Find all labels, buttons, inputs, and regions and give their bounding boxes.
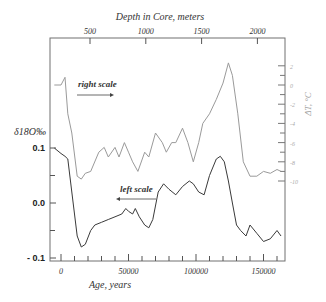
top-axis-tick-label: 500 <box>84 27 96 36</box>
x-axis-tick-label: 150000 <box>252 267 276 276</box>
left-axis-title: δ18O‰ <box>14 126 46 137</box>
left-scale-annotation: left scale <box>120 184 153 194</box>
top-axis-tick-label: 2000 <box>249 27 265 36</box>
left-axis: 0.10.0- 0.1 <box>27 143 56 263</box>
bottom-axis: 050000100000150000 <box>59 254 277 276</box>
right-axis-tick-label: -10 <box>290 179 298 185</box>
right-axis-title: ΔT, °C <box>303 91 313 117</box>
chart: 500100015002000 Depth in Core, meters 05… <box>0 0 326 302</box>
left-arrowhead-icon <box>116 197 120 201</box>
right-scale-annotation: right scale <box>78 79 117 89</box>
right-axis: 20-2-4-6-8-10 <box>278 64 298 185</box>
x-axis-title: Age, years <box>88 279 131 290</box>
left-axis-tick-label: - 0.1 <box>27 253 45 263</box>
x-axis-tick-label: 100000 <box>184 267 208 276</box>
right-axis-tick-label: 2 <box>290 64 293 70</box>
top-axis-tick-label: 1500 <box>194 27 210 36</box>
right-axis-tick-label: 0 <box>290 83 293 89</box>
right-axis-tick-label: -4 <box>290 121 295 127</box>
top-axis-title: Depth in Core, meters <box>115 11 205 22</box>
right-axis-tick-label: -2 <box>290 102 295 108</box>
top-axis: 500100015002000 <box>84 27 265 44</box>
x-axis-tick-label: 0 <box>59 267 63 276</box>
left-axis-tick-label: 0.0 <box>32 198 45 208</box>
right-arrowhead-icon <box>110 93 114 97</box>
x-axis-tick-label: 50000 <box>119 267 139 276</box>
right-axis-tick-label: -6 <box>290 141 295 147</box>
right-axis-tick-label: -8 <box>290 160 295 166</box>
left-axis-tick-label: 0.1 <box>32 143 45 153</box>
top-axis-tick-label: 1000 <box>138 27 154 36</box>
d18o-series-line <box>54 148 281 247</box>
